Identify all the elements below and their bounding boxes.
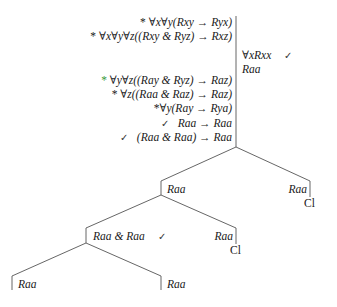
tree-lines: [0, 0, 337, 307]
check-icon: ✓: [161, 118, 169, 129]
branch-l1-right: Raa: [288, 182, 307, 196]
asterisk-marker-green: *: [101, 74, 107, 86]
branch-line: [12, 243, 86, 276]
branch-line: [236, 147, 310, 181]
branch-l2-left: Raa & Raa ✓: [93, 229, 166, 244]
trunk-formula-6: ✓ Raa → Raa: [161, 116, 232, 131]
trunk-formula-4: * ∀z((Raa & Raz) → Raz): [112, 87, 232, 101]
asterisk-marker: *: [140, 16, 146, 28]
branch-l3-right: Raa: [167, 277, 186, 291]
trunk-formula-1: * ∀x∀y(Rxy → Ryx): [140, 15, 232, 29]
asterisk-marker: *: [112, 88, 118, 100]
trunk-formula-7: ✓ (Raa & Raa) → Raa: [120, 130, 232, 145]
closed-marker: Cl: [230, 243, 241, 257]
closed-marker: Cl: [304, 196, 315, 210]
branch-line: [86, 195, 161, 228]
check-icon: ✓: [158, 231, 166, 242]
trunk-formula-5: *∀y(Ray → Rya): [154, 101, 232, 115]
trunk-formula-2: * ∀x∀y∀z((Rxy & Ryz) → Rxz): [90, 29, 232, 43]
check-icon: ✓: [284, 50, 292, 61]
branch-l3-left: Raa: [18, 277, 37, 291]
branch-l2-right: Raa: [214, 229, 233, 243]
check-icon: ✓: [120, 132, 128, 143]
asterisk-marker: *: [90, 30, 96, 42]
trunk-right-formula-1: ∀xRxx ✓: [242, 48, 292, 63]
trunk-formula-3: * ∀y∀z((Ray & Ryz) → Raz): [101, 73, 232, 87]
trunk-right-formula-2: Raa: [242, 62, 261, 76]
branch-line: [86, 243, 161, 276]
branch-line: [161, 147, 236, 181]
branch-l1-left: Raa: [167, 182, 186, 196]
branch-line: [161, 195, 236, 228]
